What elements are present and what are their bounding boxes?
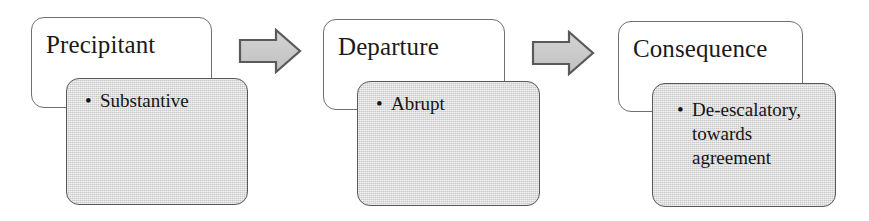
stage-detail-card-precipitant[interactable]: • Substantive: [66, 78, 248, 205]
bullet-dot-icon: •: [376, 92, 383, 116]
right-block-arrow-icon: [531, 30, 595, 76]
bullet-text: De-escalatory, towards agreement: [692, 99, 801, 168]
bullet-dot-icon: •: [85, 89, 92, 113]
list-item: • Substantive: [83, 89, 239, 113]
stage-detail-card-departure[interactable]: • Abrupt: [357, 81, 540, 206]
bullet-list-precipitant: • Substantive: [83, 89, 239, 113]
right-block-arrow-icon: [238, 28, 302, 74]
stage-title-departure: Departure: [338, 32, 439, 61]
diagram-canvas: Precipitant • Substantive Depar: [0, 0, 869, 221]
stage-title-precipitant: Precipitant: [46, 30, 155, 59]
stage-title-consequence: Consequence: [633, 34, 767, 63]
bullet-text: Substantive: [100, 90, 189, 111]
bullet-list-consequence: • De-escalatory, towards agreement: [675, 98, 821, 170]
bullet-dot-icon: •: [677, 98, 684, 122]
list-item: • De-escalatory, towards agreement: [675, 98, 821, 170]
list-item: • Abrupt: [374, 92, 531, 116]
bullet-list-departure: • Abrupt: [374, 92, 531, 116]
bullet-text: Abrupt: [391, 93, 445, 114]
stage-detail-card-consequence[interactable]: • De-escalatory, towards agreement: [652, 83, 836, 207]
